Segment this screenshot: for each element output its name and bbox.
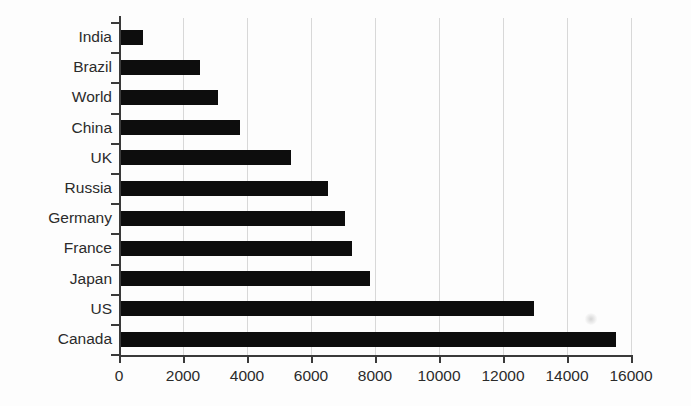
x-tick-label-4000: 4000 [230, 368, 264, 384]
x-tick-12000 [503, 355, 505, 363]
category-label-india: India [78, 29, 112, 45]
y-tick-10 [111, 324, 120, 326]
bar-chart: IndiaBrazilWorldChinaUKRussiaGermanyFran… [0, 0, 691, 406]
y-tick-6 [111, 203, 120, 205]
scan-artifact [584, 313, 598, 325]
x-tick-label-6000: 6000 [294, 368, 328, 384]
y-tick-5 [111, 173, 120, 175]
bar-japan [119, 271, 370, 286]
x-tick-label-14000: 14000 [545, 368, 588, 384]
category-label-japan: Japan [70, 271, 112, 287]
bar-us [119, 301, 534, 316]
category-label-russia: Russia [65, 180, 112, 196]
category-label-canada: Canada [58, 331, 112, 347]
bar-russia [119, 181, 328, 196]
gridline-14000 [567, 18, 568, 356]
bar-uk [119, 150, 291, 165]
y-tick-3 [111, 113, 120, 115]
gridline-16000 [631, 18, 632, 356]
bar-brazil [119, 60, 200, 75]
category-label-germany: Germany [48, 210, 112, 226]
x-tick-label-0: 0 [115, 368, 124, 384]
x-tick-0 [119, 355, 121, 363]
x-tick-14000 [567, 355, 569, 363]
x-tick-10000 [439, 355, 441, 363]
y-tick-8 [111, 264, 120, 266]
y-axis-line [119, 16, 121, 357]
x-tick-8000 [375, 355, 377, 363]
y-tick-2 [111, 82, 120, 84]
x-tick-label-2000: 2000 [166, 368, 200, 384]
category-label-france: France [64, 240, 112, 256]
x-tick-label-12000: 12000 [481, 368, 524, 384]
bar-india [119, 30, 143, 45]
bar-china [119, 120, 240, 135]
y-tick-4 [111, 143, 120, 145]
bar-world [119, 90, 218, 105]
x-tick-label-8000: 8000 [358, 368, 392, 384]
x-tick-16000 [631, 355, 633, 363]
y-tick-9 [111, 294, 120, 296]
category-label-world: World [72, 89, 112, 105]
bar-canada [119, 332, 616, 347]
x-tick-2000 [183, 355, 185, 363]
x-tick-label-16000: 16000 [609, 368, 652, 384]
category-label-uk: UK [90, 150, 112, 166]
y-tick-1 [111, 52, 120, 54]
category-label-us: US [90, 301, 112, 317]
x-tick-label-10000: 10000 [417, 368, 460, 384]
y-tick-0 [111, 22, 120, 24]
category-label-china: China [72, 120, 113, 136]
x-tick-6000 [311, 355, 313, 363]
bar-germany [119, 211, 345, 226]
category-label-brazil: Brazil [73, 59, 112, 75]
y-tick-7 [111, 233, 120, 235]
x-tick-4000 [247, 355, 249, 363]
bar-france [119, 241, 352, 256]
plot-area [119, 18, 631, 356]
